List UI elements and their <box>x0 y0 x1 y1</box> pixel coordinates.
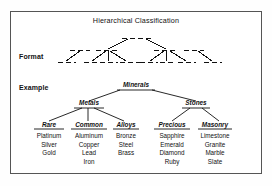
leaf-item: Copper <box>75 141 103 150</box>
figure-hierarchical-classification: Hierarchical Classification Format Examp… <box>0 0 272 186</box>
node-metals: Metals <box>79 99 99 106</box>
node-stones: Stones <box>185 99 206 106</box>
node-masonry: Masonry <box>202 121 228 128</box>
node-common: Common <box>75 121 103 128</box>
leaf-item: Limestone <box>200 132 229 141</box>
leaf-item: Sapphire <box>159 132 184 141</box>
leaf-item: Slate <box>200 158 229 167</box>
leaf-item: Diamond <box>159 149 184 158</box>
leaf-item: Marble <box>200 149 229 158</box>
leaf-item: Steel <box>116 141 136 150</box>
leaf-item: Gold <box>37 149 62 158</box>
leaf-list-precious: SapphireEmeraldDiamondRuby <box>159 132 184 166</box>
leaf-item: Granite <box>200 141 229 150</box>
leaf-list-rare: PlatinumSilverGold <box>37 132 62 158</box>
example-tree-graphic <box>0 0 272 186</box>
leaf-list-alloys: BronzeSteelBrass <box>116 132 136 158</box>
leaf-list-common: AluminumCopperLeadIron <box>75 132 103 166</box>
leaf-item: Brass <box>116 149 136 158</box>
leaf-list-masonry: LimestoneGraniteMarbleSlate <box>200 132 229 166</box>
leaf-item: Lead <box>75 149 103 158</box>
node-precious: Precious <box>159 121 186 128</box>
leaf-item: Iron <box>75 158 103 167</box>
leaf-item: Aluminum <box>75 132 103 141</box>
node-alloys: Alloys <box>116 121 135 128</box>
leaf-item: Platinum <box>37 132 62 141</box>
leaf-item: Emerald <box>159 141 184 150</box>
leaf-item: Bronze <box>116 132 136 141</box>
leaf-item: Ruby <box>159 158 184 167</box>
node-rare: Rare <box>42 121 56 128</box>
node-minerals: Minerals <box>123 81 149 88</box>
leaf-item: Silver <box>37 141 62 150</box>
